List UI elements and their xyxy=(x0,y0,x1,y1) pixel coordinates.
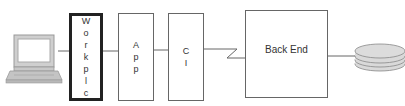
label-char: r xyxy=(85,39,88,51)
label-char: c xyxy=(84,87,89,99)
workplc-node: W o r k p l c xyxy=(69,13,103,101)
label-char: C xyxy=(183,45,190,57)
app-node: A p p xyxy=(118,13,154,101)
label-char: A xyxy=(133,39,139,51)
laptop-icon xyxy=(6,35,62,83)
ci-label: C I xyxy=(183,45,190,69)
database-disk-stack-icon xyxy=(355,44,405,71)
ci-node: C I xyxy=(168,13,204,101)
label-char: p xyxy=(133,63,138,75)
label-char: p xyxy=(133,51,138,63)
backend-label: Back End xyxy=(265,44,308,55)
label-char: I xyxy=(185,57,188,69)
workplc-label: W o r k p l c xyxy=(82,15,91,99)
label-char: l xyxy=(85,75,87,87)
edge-ci-backend-zigzag xyxy=(203,49,245,58)
label-char: W xyxy=(82,15,91,27)
label-char: p xyxy=(83,63,88,75)
label-char: o xyxy=(83,27,88,39)
app-label: A p p xyxy=(133,39,139,75)
label-char: k xyxy=(84,51,89,63)
backend-node: Back End xyxy=(245,10,328,98)
